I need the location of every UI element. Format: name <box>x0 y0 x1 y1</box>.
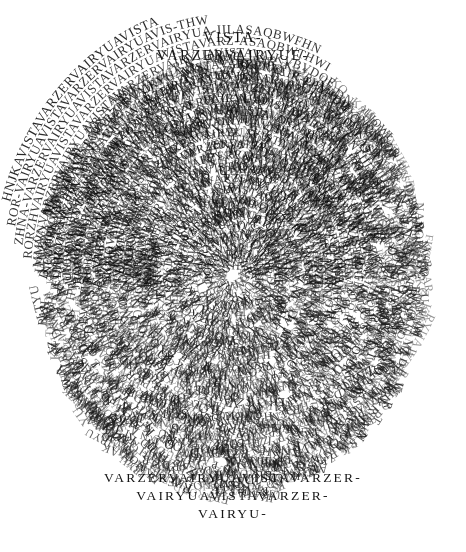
overprint-fragment: GI <box>189 444 205 459</box>
heading-line: VISTA- <box>203 29 263 45</box>
overprint-fragment: FK <box>51 246 66 264</box>
overprint-fragment: VAI <box>224 86 248 103</box>
artwork-canvas: HNJKAVISTAVARZERVAIRYUAVISTAROR-VAIRYUAV… <box>0 0 466 552</box>
overprint-fragment: IKAIL <box>364 228 380 266</box>
footer-line: VAIRYUAVISTAVARZER- <box>136 488 330 503</box>
overprint-fragment: LF <box>247 96 265 113</box>
heading-line: VARZERVAIRYUE- <box>156 47 309 63</box>
overprint-fragment: WKLI <box>182 78 220 95</box>
overprint-fragment: ORZ <box>116 284 131 310</box>
footer-line: VAIRYU- <box>198 506 268 521</box>
footer-line: VARZERVAIRYUAVISTAVARZER- <box>104 470 362 485</box>
overprint-fragment: WLIHI <box>257 421 293 435</box>
overprint-fragment: PAH <box>328 269 345 297</box>
overprint-fragment: DFK <box>307 279 324 308</box>
overprint-glyph: N <box>49 342 60 350</box>
asemic-text-disc-artwork: HNJKAVISTAVARZERVAIRYUAVISTAROR-VAIRYUAV… <box>0 0 466 552</box>
overprint-fragment: IS <box>222 436 234 450</box>
